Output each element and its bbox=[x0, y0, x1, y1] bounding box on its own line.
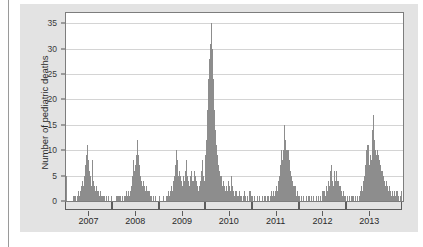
bar-series bbox=[66, 13, 403, 201]
y-tick-label: 35 bbox=[48, 18, 57, 28]
bar bbox=[306, 196, 307, 201]
plot-area bbox=[65, 12, 404, 202]
year-bracket bbox=[159, 202, 206, 210]
y-tick-label: 30 bbox=[48, 44, 57, 54]
x-tick-label: 2013 bbox=[359, 216, 379, 226]
bar bbox=[401, 191, 402, 201]
year-bracket bbox=[112, 202, 159, 210]
bar bbox=[155, 196, 156, 201]
year-bracket bbox=[252, 202, 299, 210]
bar bbox=[163, 196, 164, 201]
y-tick-label: 10 bbox=[48, 145, 57, 155]
year-bracket bbox=[65, 202, 112, 210]
page-margin-rule bbox=[8, 0, 9, 247]
y-tick-label: 25 bbox=[48, 69, 57, 79]
x-axis-bracket-group bbox=[65, 202, 404, 211]
bar bbox=[308, 196, 309, 201]
year-bracket bbox=[205, 202, 252, 210]
bar bbox=[259, 196, 260, 201]
bar bbox=[352, 196, 353, 201]
bar bbox=[108, 196, 109, 201]
year-bracket bbox=[299, 202, 346, 210]
x-tick-label: 2007 bbox=[78, 216, 98, 226]
bar bbox=[66, 196, 67, 201]
x-axis-label-group: 2007200820092010201120122013 bbox=[65, 216, 404, 232]
y-tick-label: 15 bbox=[48, 120, 57, 130]
x-tick-label: 2012 bbox=[312, 216, 332, 226]
y-tick-label: 20 bbox=[48, 94, 57, 104]
x-tick-label: 2011 bbox=[266, 216, 285, 226]
bar bbox=[264, 196, 265, 201]
x-tick-label: 2008 bbox=[125, 216, 145, 226]
bar bbox=[159, 196, 160, 201]
figure-panel: Number of pediatric deaths 0510152025303… bbox=[20, 4, 418, 232]
x-tick-label: 2010 bbox=[219, 216, 239, 226]
y-tick-label: 0 bbox=[52, 196, 57, 206]
bar bbox=[254, 196, 255, 201]
bar bbox=[262, 196, 263, 201]
bar bbox=[111, 196, 112, 201]
y-axis-tick-group: 05101520253035 bbox=[20, 4, 65, 202]
bar bbox=[313, 196, 314, 201]
x-tick-label: 2009 bbox=[172, 216, 192, 226]
year-bracket bbox=[346, 202, 402, 210]
y-tick-label: 5 bbox=[52, 171, 57, 181]
bar bbox=[303, 196, 304, 201]
